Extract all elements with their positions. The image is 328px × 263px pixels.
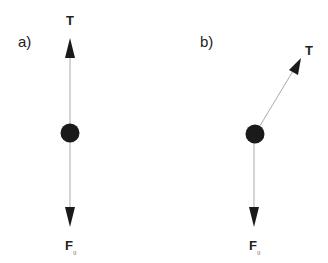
gravity-label-a: Fg [65,238,76,255]
tension-label-a: T [66,13,74,28]
gravity-symbol-a: F [65,238,73,253]
gravity-subscript-a: g [73,249,76,255]
panel-label-a: a) [18,33,31,50]
free-body-diagrams [0,0,328,263]
gravity-label-b: Fg [249,238,260,255]
gravity-subscript-b: g [257,249,260,255]
tension-label-b: T [305,43,313,58]
mass-ball-a [61,124,80,143]
gravity-symbol-b: F [249,238,257,253]
mass-ball-b [246,125,265,144]
panel-b-diagram [246,58,302,227]
tension-arrowhead-a [65,38,75,58]
tension-line-b [255,66,296,134]
panel-a-diagram [61,38,80,227]
tension-arrowhead-b [289,58,301,75]
gravity-arrowhead-a [65,207,75,227]
gravity-arrowhead-b [249,207,259,227]
panel-label-b: b) [200,33,213,50]
